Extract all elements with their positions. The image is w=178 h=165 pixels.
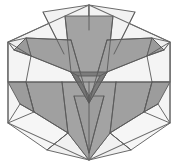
hexagon-pattern-figure: Hexagonal folded-paper crease pattern Re… bbox=[0, 0, 178, 165]
figure-root: Hexagonal folded-paper crease pattern Re… bbox=[0, 0, 178, 165]
